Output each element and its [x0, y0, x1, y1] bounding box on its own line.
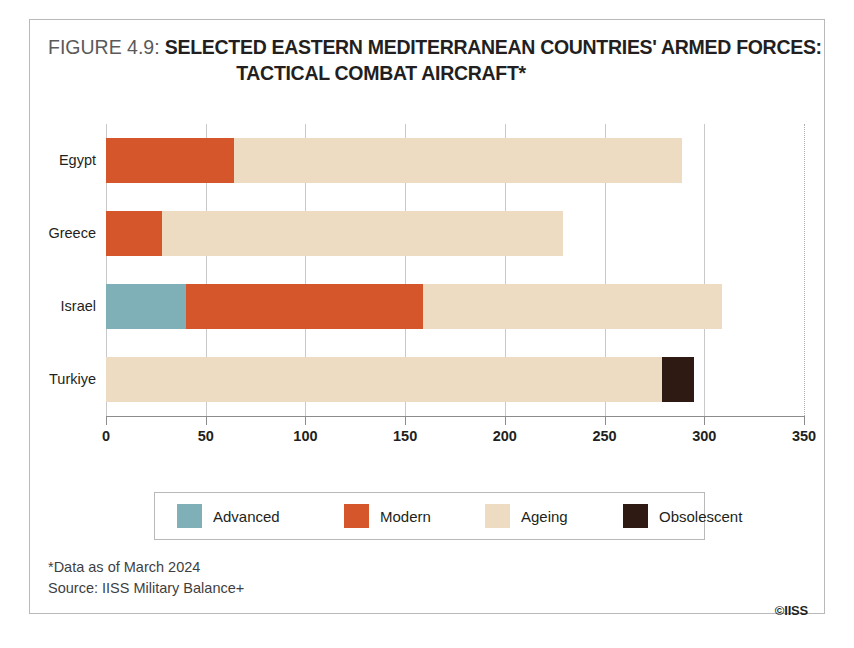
category-label-turkiye: Turkiye	[49, 371, 96, 387]
figure-title-text-2: TACTICAL COMBAT AIRCRAFT*	[236, 62, 526, 84]
x-tick-mark-0	[106, 417, 107, 425]
x-tick-mark-150	[405, 417, 406, 425]
x-tick-mark-50	[206, 417, 207, 425]
x-tick-label-200: 200	[493, 428, 517, 444]
category-label-egypt: Egypt	[59, 152, 96, 168]
bar-israel	[106, 284, 804, 329]
copyright-label: ©IISS	[775, 603, 808, 618]
legend-item-ageing[interactable]: Ageing	[485, 504, 568, 528]
gridline-350	[804, 124, 806, 416]
legend-label-obsolescent: Obsolescent	[659, 508, 742, 525]
bar-segment-greece-modern	[106, 211, 162, 256]
figure-title-text-1: SELECTED EASTERN MEDITERRANEAN COUNTRIES…	[165, 36, 822, 58]
bar-segment-greece-ageing	[162, 211, 563, 256]
x-tick-mark-350	[804, 417, 805, 425]
bar-segment-turkiye-obsolescent	[662, 357, 694, 402]
x-axis-line	[106, 416, 805, 417]
legend-label-advanced: Advanced	[213, 508, 280, 525]
bar-segment-turkiye-ageing	[106, 357, 662, 402]
x-tick-label-150: 150	[393, 428, 417, 444]
bar-segment-egypt-modern	[106, 138, 234, 183]
footer-source: Source: IISS Military Balance+	[48, 578, 808, 599]
bar-segment-israel-modern	[186, 284, 423, 329]
x-tick-label-300: 300	[692, 428, 716, 444]
legend-item-obsolescent[interactable]: Obsolescent	[623, 504, 742, 528]
legend-label-modern: Modern	[380, 508, 431, 525]
x-tick-label-50: 50	[198, 428, 214, 444]
x-tick-label-0: 0	[102, 428, 110, 444]
bar-greece	[106, 211, 804, 256]
x-tick-mark-250	[605, 417, 606, 425]
bar-segment-israel-ageing	[423, 284, 722, 329]
footer-note: *Data as of March 2024	[48, 557, 808, 578]
x-tick-mark-200	[505, 417, 506, 425]
chart-legend: AdvancedModernAgeingObsolescent	[154, 492, 705, 540]
bar-egypt	[106, 138, 804, 183]
figure-number-label: FIGURE 4.9:	[48, 36, 160, 58]
x-tick-label-100: 100	[293, 428, 317, 444]
legend-item-advanced[interactable]: Advanced	[177, 504, 280, 528]
legend-swatch-ageing	[485, 504, 510, 528]
x-tick-mark-100	[305, 417, 306, 425]
x-tick-label-350: 350	[792, 428, 816, 444]
category-axis-labels: EgyptGreeceIsraelTurkiye	[30, 124, 96, 416]
legend-swatch-modern	[344, 504, 369, 528]
legend-swatch-advanced	[177, 504, 202, 528]
category-label-greece: Greece	[48, 225, 96, 241]
bar-segment-israel-advanced	[106, 284, 186, 329]
category-label-israel: Israel	[61, 298, 96, 314]
x-tick-label-250: 250	[592, 428, 616, 444]
x-tick-mark-300	[704, 417, 705, 425]
bar-turkiye	[106, 357, 804, 402]
figure-title-line-2: TACTICAL COMBAT AIRCRAFT*	[48, 60, 810, 86]
chart-plot-area: EgyptGreeceIsraelTurkiye 050100150200250…	[30, 112, 826, 442]
legend-swatch-obsolescent	[623, 504, 648, 528]
legend-item-modern[interactable]: Modern	[344, 504, 431, 528]
figure-card: FIGURE 4.9: SELECTED EASTERN MEDITERRANE…	[29, 19, 825, 614]
bar-segment-egypt-ageing	[234, 138, 683, 183]
figure-title-block: FIGURE 4.9: SELECTED EASTERN MEDITERRANE…	[48, 34, 810, 86]
legend-label-ageing: Ageing	[521, 508, 568, 525]
figure-title-line-1: FIGURE 4.9: SELECTED EASTERN MEDITERRANE…	[48, 34, 810, 60]
figure-footer: *Data as of March 2024 Source: IISS Mili…	[48, 557, 808, 599]
